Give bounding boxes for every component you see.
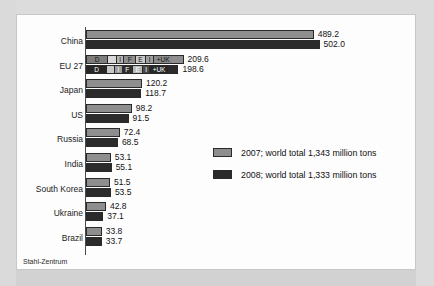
category-label-brazil: Brazil [17,226,83,250]
bar-2008 [86,114,129,123]
bar-group: 42.837.1 [86,201,416,225]
bar-2008 [86,89,141,98]
bar-2007 [86,227,102,236]
value-label-2008: 118.7 [145,88,166,98]
value-label-2008: 502.0 [324,39,345,49]
value-label-2008: 198.6 [182,64,203,74]
eu-segment-i: I [146,56,154,63]
source-annotation: Stahl-Zentrum [23,258,67,265]
bar-row: EU 27DIFEI+UK209.6DIFEI+UK198.6 [17,54,416,78]
category-label-us: US [17,103,83,127]
frame-top-edge [0,0,434,14]
eu-segment-e: E [136,56,146,63]
eu-segment-d: D [87,66,107,73]
bar-2008 [86,237,102,246]
bar-2007 [86,178,110,187]
bar-2008 [86,138,118,147]
bar-2007-segmented: DIFEI+UK [86,55,184,64]
bar-group: 489.2502.0 [86,29,416,53]
value-label-2007: 42.8 [110,201,127,211]
bar-2007 [86,30,314,39]
bar-2008 [86,163,112,172]
eu-segment-f: F [123,66,134,73]
frame-left-edge [0,0,16,286]
eu-segment-f: F [124,56,135,63]
value-label-2007: 209.6 [188,54,209,64]
bar-2008 [86,188,111,197]
value-label-2008: 55.1 [116,162,133,172]
chart-legend: 2007; world total 1,343 million tons2008… [213,143,409,187]
eu-segment-i: I [117,56,125,63]
bar-row: China489.2502.0 [17,29,416,53]
eu-segment-d: D [87,56,108,63]
value-label-2007: 98.2 [136,103,153,113]
frame-bottom-edge [0,270,434,286]
chart-card: China489.2502.0EU 27DIFEI+UK209.6DIFEI+U… [16,14,416,270]
eu-segment-plusuk: +UK [150,66,167,73]
bar-2007 [86,128,120,137]
legend-item: 2008; world total 1,333 million tons [213,165,409,187]
bar-2007 [86,153,111,162]
bar-2008-segmented: DIFEI+UK [86,65,178,74]
bar-row: US98.291.5 [17,103,416,127]
value-label-2008: 33.7 [106,236,123,246]
legend-item: 2007; world total 1,343 million tons [213,143,409,165]
bar-row: Brazil33.833.7 [17,226,416,250]
value-label-2008: 68.5 [122,137,139,147]
bar-group: 33.833.7 [86,226,416,250]
bar-2007 [86,104,132,113]
value-label-2007: 33.8 [106,226,123,236]
value-label-2008: 37.1 [107,211,124,221]
bar-row: Japan120.2118.7 [17,78,416,102]
category-label-russia: Russia [17,127,83,151]
category-label-china: China [17,29,83,53]
legend-swatch-2007 [213,148,232,157]
value-label-2008: 91.5 [133,113,150,123]
eu-segment-i: I [115,66,122,73]
eu-segment-i: I [143,66,150,73]
value-label-2008: 53.5 [115,187,132,197]
value-label-2007: 53.1 [115,152,132,162]
category-label-eu-27: EU 27 [17,54,83,78]
value-label-2007: 489.2 [318,29,339,39]
bar-2008 [86,212,103,221]
bar-group: 98.291.5 [86,103,416,127]
bar-group: DIFEI+UK209.6DIFEI+UK198.6 [86,54,416,78]
legend-label-2007: 2007; world total 1,343 million tons [241,143,376,163]
value-label-2007: 51.5 [114,177,131,187]
category-label-south-korea: South Korea [17,177,83,201]
eu-segment-1 [107,66,115,73]
bar-row: Ukraine42.837.1 [17,201,416,225]
frame-right-edge [416,0,434,286]
eu-segment-1 [108,56,117,63]
eu-segment-e: E [133,66,143,73]
value-label-2007: 120.2 [146,78,167,88]
bar-2008 [86,40,320,49]
legend-label-2008: 2008; world total 1,333 million tons [241,165,376,185]
category-label-india: India [17,152,83,176]
bar-group: 120.2118.7 [86,78,416,102]
value-label-2007: 72.4 [124,127,141,137]
category-label-ukraine: Ukraine [17,201,83,225]
bar-2007 [86,202,106,211]
legend-swatch-2008 [213,170,232,179]
category-label-japan: Japan [17,78,83,102]
eu-segment-plusuk: +UK [154,56,172,63]
bar-2007 [86,79,142,88]
